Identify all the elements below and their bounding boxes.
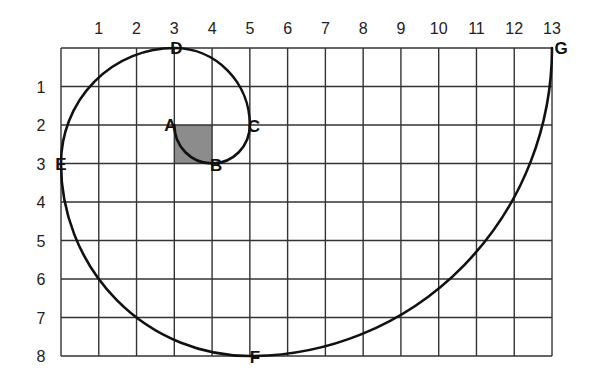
y-tick-label: 3: [37, 156, 46, 173]
y-tick-label: 2: [37, 117, 46, 134]
point-label-a: A: [164, 116, 176, 135]
spiral-diagram: 12345678910111213 12345678 ABCDEFG: [0, 0, 594, 381]
y-tick-label: 4: [37, 194, 46, 211]
x-tick-label: 12: [505, 20, 523, 37]
x-tick-label: 8: [359, 20, 368, 37]
x-tick-label: 5: [245, 20, 254, 37]
grid: [61, 48, 552, 356]
point-label-b: B: [210, 156, 222, 175]
point-label-c: C: [248, 117, 260, 136]
x-tick-label: 3: [170, 20, 179, 37]
point-label-e: E: [55, 155, 66, 174]
x-tick-label: 1: [94, 20, 103, 37]
x-tick-label: 11: [468, 20, 485, 37]
x-tick-label: 2: [132, 20, 141, 37]
x-tick-label: 9: [396, 20, 405, 37]
point-label-f: F: [250, 348, 260, 367]
y-tick-label: 6: [37, 271, 46, 288]
x-tick-label: 6: [283, 20, 292, 37]
x-tick-label: 4: [208, 20, 217, 37]
x-tick-label: 13: [543, 20, 561, 37]
point-label-d: D: [170, 39, 182, 58]
x-axis-tick-labels: 12345678910111213: [94, 20, 561, 37]
x-tick-label: 7: [321, 20, 330, 37]
point-label-g: G: [554, 39, 567, 58]
x-tick-label: 10: [430, 20, 448, 37]
y-tick-label: 1: [37, 79, 46, 96]
y-axis-tick-labels: 12345678: [37, 79, 46, 366]
y-tick-label: 8: [37, 348, 46, 365]
y-tick-label: 5: [37, 233, 46, 250]
y-tick-label: 7: [37, 310, 46, 327]
